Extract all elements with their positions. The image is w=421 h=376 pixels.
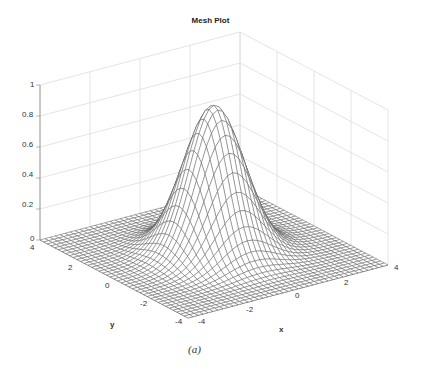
x-tick--4: -4 (198, 318, 205, 326)
z-tick-0.6: 0.6 (22, 141, 33, 149)
z-tick-0.8: 0.8 (22, 111, 33, 119)
x-tick-2: 2 (344, 279, 348, 287)
chart-title: Mesh Plot (0, 16, 421, 25)
y-tick-2: 2 (68, 264, 72, 272)
mesh-plot-figure: Mesh Plot 1 0.8 0.6 0.4 0.2 0 4 2 0 -2 -… (0, 0, 421, 376)
y-tick-4: 4 (30, 244, 34, 252)
x-axis-label: x (279, 325, 283, 334)
y-tick--2: -2 (140, 300, 147, 308)
z-tick-0.4: 0.4 (22, 171, 33, 179)
x-tick-0: 0 (295, 292, 299, 300)
x-tick--2: -2 (246, 306, 253, 314)
z-tick-0.2: 0.2 (22, 201, 33, 209)
z-tick-1: 1 (30, 81, 34, 89)
mesh-plot-canvas (0, 0, 421, 376)
z-tick-0: 0 (30, 235, 34, 243)
y-tick-0: 0 (105, 282, 109, 290)
x-tick-4: 4 (394, 264, 398, 272)
figure-caption: (a) (188, 343, 201, 355)
y-axis-label: y (110, 320, 114, 329)
y-tick--4: -4 (175, 318, 182, 326)
